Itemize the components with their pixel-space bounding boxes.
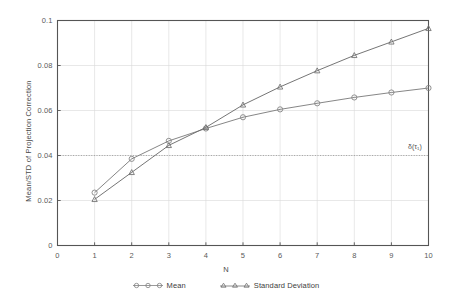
x-tick-label: 8 bbox=[339, 251, 369, 260]
y-axis-label: Mean/STD of Projection Correction bbox=[24, 80, 33, 201]
x-tick-label: 3 bbox=[154, 251, 184, 260]
x-tick-label: 4 bbox=[191, 251, 221, 260]
legend-item-mean: Mean bbox=[133, 281, 186, 290]
x-tick-label: 7 bbox=[302, 251, 332, 260]
reference-line-annotation: δ(τ₁) bbox=[408, 143, 422, 150]
y-tick-label: 0 bbox=[0, 241, 53, 250]
y-tick-label: 0.04 bbox=[0, 151, 53, 160]
x-tick-label: 5 bbox=[228, 251, 258, 260]
legend-label-mean: Mean bbox=[167, 281, 186, 290]
y-tick-label: 0.08 bbox=[0, 61, 53, 70]
x-tick-label: 1 bbox=[80, 251, 110, 260]
legend-marker-circle-icon bbox=[133, 281, 163, 290]
legend-label-standard-deviation: Standard Deviation bbox=[254, 281, 320, 290]
x-tick-label: 0 bbox=[43, 251, 73, 260]
y-tick-label: 0.02 bbox=[0, 196, 53, 205]
y-axis-label-wrap: Mean/STD of Projection Correction bbox=[17, 41, 35, 241]
x-tick-label: 10 bbox=[414, 251, 444, 260]
chart-legend: Mean Standard Deviation bbox=[0, 281, 452, 290]
x-axis-label: N bbox=[0, 265, 452, 274]
x-tick-label: 2 bbox=[117, 251, 147, 260]
y-tick-label: 0.1 bbox=[0, 16, 53, 25]
series-mean bbox=[92, 85, 431, 195]
chart-figure: Mean/STD of Projection Correction N Mean… bbox=[0, 0, 452, 302]
y-tick-label: 0.06 bbox=[0, 106, 53, 115]
legend-item-standard-deviation: Standard Deviation bbox=[220, 281, 320, 290]
x-tick-label: 6 bbox=[265, 251, 295, 260]
x-tick-label: 9 bbox=[376, 251, 406, 260]
legend-marker-triangle-icon bbox=[220, 281, 250, 290]
